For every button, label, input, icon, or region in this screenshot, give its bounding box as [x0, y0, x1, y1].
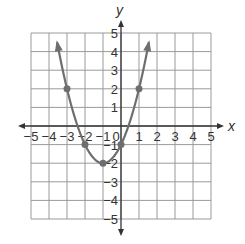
data-point — [64, 85, 71, 92]
svg-text:5: 5 — [111, 26, 118, 41]
svg-text:4: 4 — [189, 129, 196, 144]
svg-text:−1: −1 — [103, 138, 118, 153]
data-point — [136, 85, 143, 92]
svg-text:1: 1 — [111, 100, 118, 115]
svg-text:−5: −5 — [24, 129, 39, 144]
svg-text:2: 2 — [153, 129, 160, 144]
svg-text:2: 2 — [111, 82, 118, 97]
svg-text:−4: −4 — [42, 129, 57, 144]
y-axis-label: y — [115, 2, 124, 18]
svg-text:3: 3 — [171, 129, 178, 144]
coordinate-plane: −5−4−3−2−101234554321−1−2−3−4−5 x y — [0, 0, 245, 244]
svg-text:1: 1 — [135, 129, 142, 144]
svg-text:−4: −4 — [103, 193, 118, 208]
data-point — [100, 160, 107, 167]
svg-text:−5: −5 — [103, 212, 118, 227]
svg-text:−3: −3 — [60, 129, 75, 144]
svg-text:4: 4 — [111, 45, 118, 60]
svg-text:−3: −3 — [103, 175, 118, 190]
data-point — [118, 141, 125, 148]
data-point — [82, 141, 89, 148]
svg-text:3: 3 — [111, 63, 118, 78]
svg-text:5: 5 — [207, 129, 214, 144]
x-axis-label: x — [227, 118, 236, 134]
